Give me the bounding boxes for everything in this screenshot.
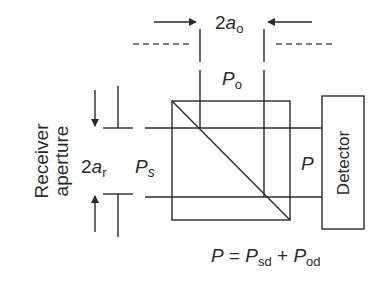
detector-label: Detector <box>334 131 353 196</box>
detector-box: Detector <box>322 96 364 229</box>
receiver-aperture-stops <box>103 86 133 237</box>
local-beam-lines <box>200 29 264 197</box>
combined-power-label: P <box>301 153 314 174</box>
receiver-label-line1: Receiver <box>31 123 52 199</box>
beam-splitter-diagonal <box>172 101 290 220</box>
diagram-canvas: Detector 2ao Po Receiver aperture 2ar Ps… <box>0 0 379 287</box>
beam-splitter-cube <box>172 101 290 220</box>
receiver-aperture-label: 2ar <box>81 156 107 180</box>
receiver-label-line2: aperture <box>51 126 72 197</box>
local-aperture-label: 2ao <box>215 12 243 36</box>
power-equation: P = Psd + Pod <box>211 245 321 269</box>
local-power-label: Po <box>222 68 242 92</box>
signal-power-label: Ps <box>135 156 155 180</box>
